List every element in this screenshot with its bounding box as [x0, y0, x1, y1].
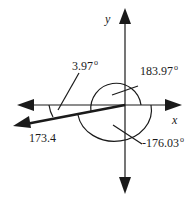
arc-neg-176-03 — [78, 105, 151, 141]
angle-label-183-97: 183.97o — [140, 64, 178, 77]
y-axis-down-arrow — [119, 177, 131, 194]
y-axis-up-arrow — [119, 8, 131, 24]
angle-value: 3.97 — [72, 59, 93, 73]
arc-3-97 — [49, 105, 53, 117]
degree-symbol: o — [180, 135, 184, 144]
angle-label-neg-176-03: -176.03o — [142, 136, 184, 149]
angle-label-3-97: 3.97o — [72, 59, 98, 72]
degree-symbol: o — [174, 63, 178, 72]
x-axis-left-arrow — [17, 99, 34, 111]
y-axis-label: y — [105, 13, 110, 25]
vector-diagram — [0, 0, 196, 203]
vector-magnitude-label: 173.4 — [29, 132, 56, 144]
vector-arrowhead — [13, 116, 31, 128]
angle-value: -176.03 — [142, 136, 179, 150]
resultant-vector — [26, 105, 125, 124]
x-axis-label: x — [172, 114, 177, 126]
degree-symbol: o — [94, 58, 98, 67]
angle-value: 183.97 — [140, 64, 173, 78]
x-axis-right-arrow — [165, 99, 182, 111]
